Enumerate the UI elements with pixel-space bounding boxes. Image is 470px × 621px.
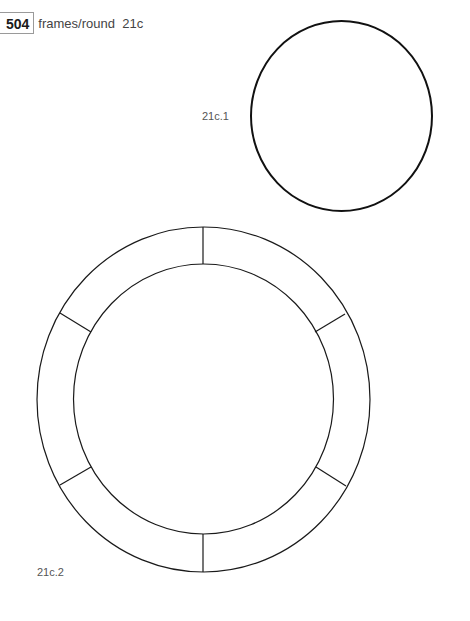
outer-ring	[37, 227, 370, 572]
segment-divider-upper-right	[315, 314, 345, 332]
inner-ring	[74, 264, 334, 534]
figure-caption-21c-1: 21c.1	[202, 110, 229, 122]
figure-caption-21c-2: 21c.2	[37, 566, 64, 578]
segment-divider-lower-left	[60, 467, 91, 485]
segment-divider-upper-left	[60, 313, 91, 332]
segment-divider-lower-right	[316, 467, 346, 486]
figure-21c-1-circle-frame	[251, 21, 432, 211]
figure-21c-2-segmented-ring	[37, 227, 370, 572]
frames-illustration	[0, 0, 470, 621]
